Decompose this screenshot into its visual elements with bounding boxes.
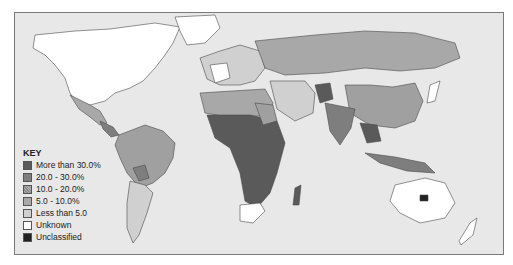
key-item-unknown: Unknown (23, 219, 101, 231)
region-japan (427, 81, 440, 103)
swatch-unknown (23, 221, 32, 230)
swatch-10-20 (23, 185, 32, 194)
region-china (345, 83, 423, 128)
key-label: 20.0 - 30.0% (36, 172, 84, 182)
region-central-africa (207, 115, 285, 208)
key-label: Less than 5.0 (36, 208, 87, 218)
region-greenland (175, 15, 220, 45)
swatch-5-10 (23, 197, 32, 206)
world-map-frame: KEY More than 30.0% 20.0 - 30.0% 10.0 - … (14, 12, 504, 255)
region-afghanistan (315, 83, 333, 103)
key-item-unclassified: Unclassified (23, 231, 101, 243)
region-new-zealand (459, 218, 477, 245)
region-southern-cone (127, 181, 153, 243)
region-madagascar (293, 185, 301, 205)
swatch-less-than-5 (23, 209, 32, 218)
key-item-5-10: 5.0 - 10.0% (23, 195, 101, 207)
key-label: More than 30.0% (36, 160, 101, 170)
key-label: Unclassified (36, 232, 82, 242)
region-middle-east (270, 81, 315, 121)
region-central-america (100, 121, 119, 137)
key-label: 5.0 - 10.0% (36, 196, 79, 206)
key-item-less-than-5: Less than 5.0 (23, 207, 101, 219)
key-label: 10.0 - 20.0% (36, 184, 84, 194)
key-title: KEY (23, 148, 101, 158)
key-item-20-30: 20.0 - 30.0% (23, 171, 101, 183)
swatch-more-than-30 (23, 161, 32, 170)
region-russia (255, 31, 460, 75)
region-north-america (33, 23, 180, 105)
swatch-unclassified (23, 233, 32, 242)
key-item-10-20: 10.0 - 20.0% (23, 183, 101, 195)
region-india (325, 103, 355, 145)
swatch-20-30 (23, 173, 32, 182)
region-south-africa (240, 203, 265, 223)
key-item-more-than-30: More than 30.0% (23, 159, 101, 171)
region-central-australia-unclassified (420, 195, 428, 201)
key-label: Unknown (36, 220, 71, 230)
map-key: KEY More than 30.0% 20.0 - 30.0% 10.0 - … (23, 148, 101, 243)
region-indonesia (365, 153, 435, 173)
